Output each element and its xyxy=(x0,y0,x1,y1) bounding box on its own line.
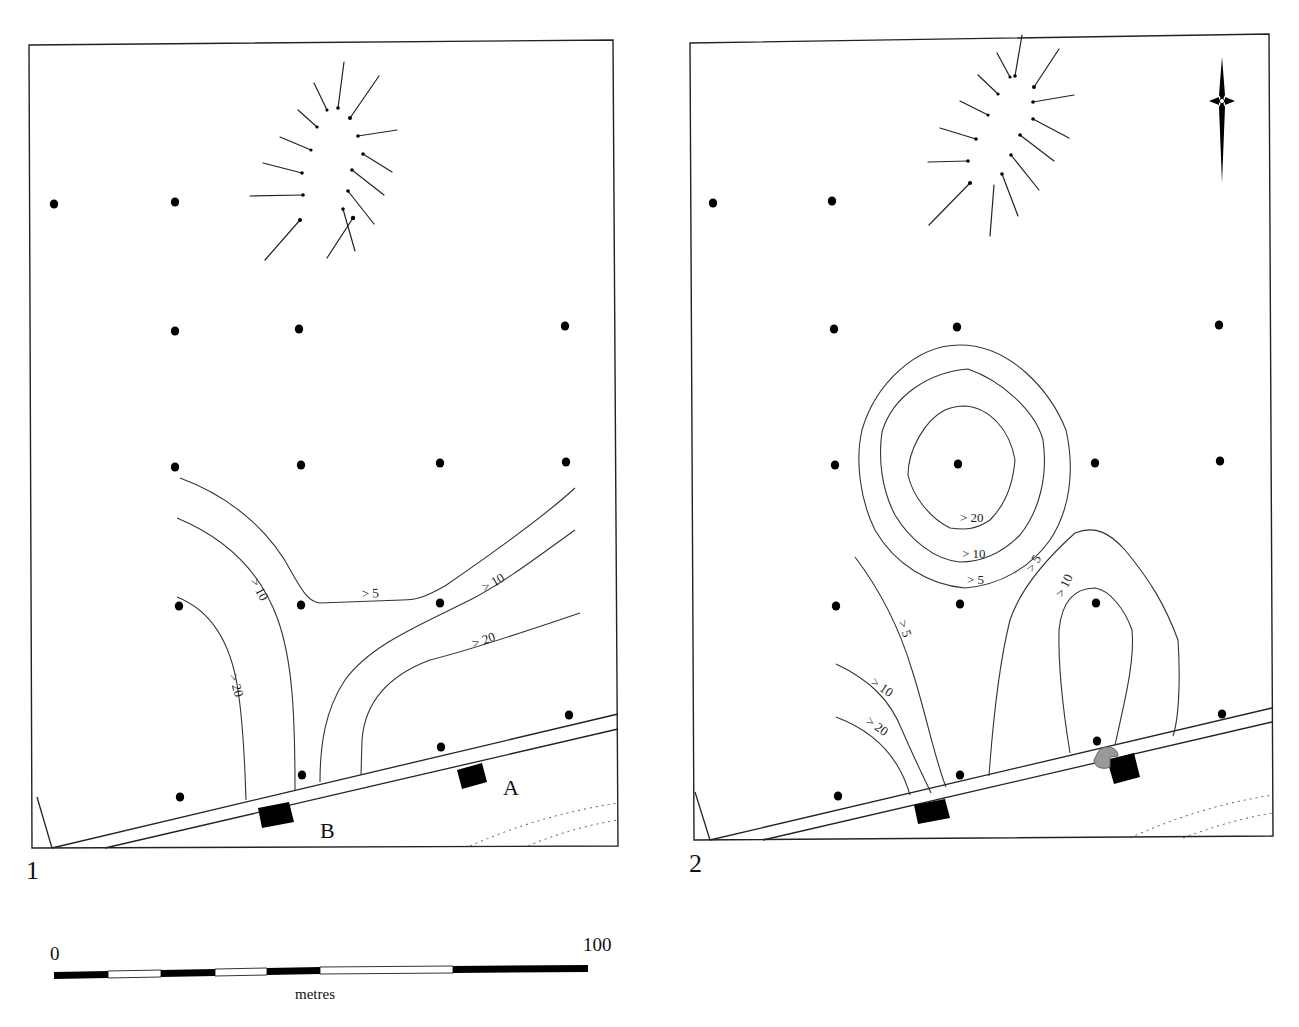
contour-label: > 20 xyxy=(863,713,891,739)
sample-point xyxy=(1216,456,1224,465)
sample-point xyxy=(834,791,842,800)
figure-canvas: > 5> 10> 10> 20> 20> 20> 10> 5> 5> 10> 5… xyxy=(0,0,1299,1027)
panel-1-dotted-line xyxy=(528,820,618,846)
sample-point xyxy=(1091,458,1099,467)
sample-point xyxy=(953,322,961,331)
panel-number-2: 2 xyxy=(689,849,702,878)
sample-point xyxy=(297,460,305,469)
panel-1-road-edge-upper xyxy=(52,714,618,848)
sample-point xyxy=(175,601,183,610)
sample-point xyxy=(954,459,962,468)
sample-point xyxy=(956,599,964,608)
contour-label: > 5 xyxy=(361,585,379,601)
contour-line-gt10 xyxy=(881,369,1045,562)
sample-point xyxy=(50,199,58,208)
sample-point xyxy=(832,601,840,610)
panel-2-road-edge-lower xyxy=(763,722,1272,840)
contour-line-gt10 xyxy=(320,530,575,782)
contour-line-gt10 xyxy=(1059,588,1133,753)
panel-2-corner-wedge xyxy=(695,792,710,840)
sample-point xyxy=(171,462,179,471)
sunburst-symbol xyxy=(250,62,397,260)
sample-point xyxy=(436,598,444,607)
sample-point xyxy=(956,770,964,779)
sample-point xyxy=(171,326,179,335)
panel-1-dotted-line xyxy=(470,803,618,846)
contour-label: > 20 xyxy=(470,629,497,651)
contour-label: > 10 xyxy=(868,674,896,700)
site-label-b: B xyxy=(320,818,335,843)
sample-point xyxy=(1218,709,1226,718)
contour-label: > 20 xyxy=(960,510,984,525)
contour-label: > 10 xyxy=(1052,572,1076,600)
contour-label: > 20 xyxy=(226,672,247,699)
sample-point xyxy=(171,197,179,206)
sample-point xyxy=(565,710,573,719)
contour-label: > 5 xyxy=(1023,552,1045,574)
contour-line-gt10 xyxy=(177,518,295,790)
panel-2 xyxy=(690,34,1273,840)
contour-line-gt5 xyxy=(855,557,946,787)
sample-point xyxy=(562,457,570,466)
north-arrow-icon xyxy=(1209,57,1235,183)
sample-point xyxy=(709,198,717,207)
contour-label: > 5 xyxy=(967,572,984,587)
site-marker-west xyxy=(914,799,950,824)
contour-label: > 10 xyxy=(479,570,507,595)
contour-label: > 10 xyxy=(962,546,986,561)
sample-point xyxy=(436,458,444,467)
panel-number-1: 1 xyxy=(26,856,39,885)
sample-point xyxy=(176,792,184,801)
sample-point xyxy=(828,196,836,205)
contour-line-gt20 xyxy=(177,597,246,800)
sample-point xyxy=(437,742,445,751)
contour-labels: > 5> 10> 10> 20> 20> 20> 10> 5> 5> 10> 5… xyxy=(226,510,1076,739)
sample-point xyxy=(298,770,306,779)
scale-unit-label: metres xyxy=(295,986,335,1002)
sample-point xyxy=(1092,598,1100,607)
contour-line-gt5 xyxy=(989,530,1179,776)
panel-1-corner-wedge xyxy=(37,797,52,848)
scale-end-label: 100 xyxy=(583,934,612,955)
site-marker-a xyxy=(457,763,487,789)
sample-point xyxy=(1215,320,1223,329)
sample-point xyxy=(1093,736,1101,745)
panel-2-road-edge-upper xyxy=(710,708,1272,840)
sample-points xyxy=(50,196,1226,801)
site-label-a: A xyxy=(503,775,519,800)
sample-point xyxy=(295,324,303,333)
sample-point xyxy=(831,460,839,469)
sunburst-symbol xyxy=(928,35,1074,236)
sample-point xyxy=(830,324,838,333)
contour-label: > 10 xyxy=(247,575,271,603)
panel-1-frame xyxy=(29,40,618,848)
site-marker-east xyxy=(1107,753,1140,784)
sample-point xyxy=(297,600,305,609)
panel-1 xyxy=(29,40,618,848)
scale-bar: 0 100 metres xyxy=(50,934,612,1002)
site-marker-b xyxy=(258,802,294,828)
sample-point xyxy=(561,321,569,330)
panel-2-frame xyxy=(690,34,1273,840)
contour-label: > 5 xyxy=(895,618,915,639)
scale-start-label: 0 xyxy=(50,943,60,964)
panel-2-dotted-line xyxy=(1183,813,1273,838)
